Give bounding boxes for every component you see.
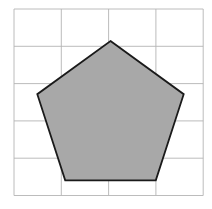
pentagon-grid-figure bbox=[0, 0, 212, 209]
figure-canvas bbox=[0, 0, 212, 209]
